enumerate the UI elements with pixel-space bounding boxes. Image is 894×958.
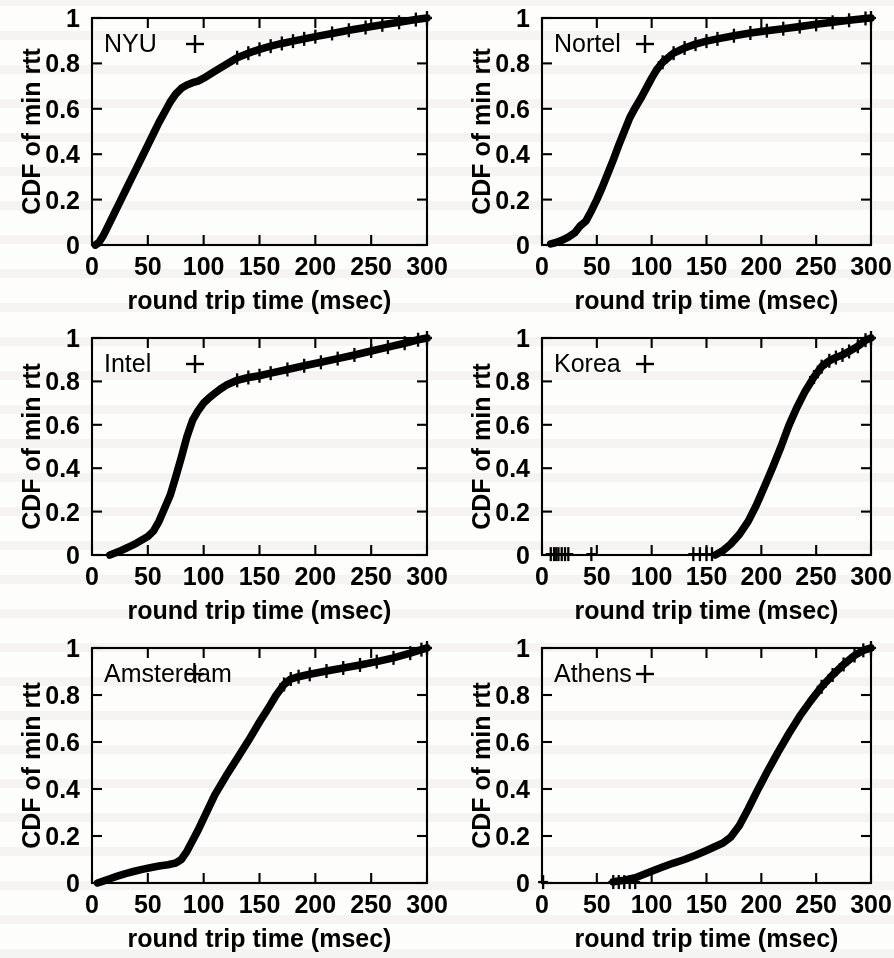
cdf-curve <box>613 648 871 882</box>
x-tick-label: 200 <box>740 252 782 280</box>
plot-nortel: 05010015020025030000.20.40.60.81Nortelro… <box>450 0 894 320</box>
x-tick-label: 0 <box>535 252 549 280</box>
y-tick-label: 0.6 <box>45 95 80 123</box>
x-tick-label: 50 <box>583 890 611 918</box>
y-tick-label: 0.6 <box>495 95 530 123</box>
x-tick-label: 50 <box>134 252 162 280</box>
y-tick-label: 0.8 <box>45 681 80 709</box>
y-tick-label: 1 <box>516 324 530 352</box>
y-tick-label: 0.8 <box>495 367 530 395</box>
x-tick-label: 150 <box>686 252 728 280</box>
x-tick-label: 100 <box>183 890 225 918</box>
y-tick-label: 0.2 <box>45 822 80 850</box>
panel-nyu: 05010015020025030000.20.40.60.81NYUround… <box>0 0 450 320</box>
x-tick-label: 0 <box>535 562 549 590</box>
x-tick-label: 250 <box>795 562 837 590</box>
y-tick-label: 1 <box>516 4 530 32</box>
x-tick-label: 100 <box>183 252 225 280</box>
x-tick-label: 200 <box>740 890 782 918</box>
y-tick-label: 0.6 <box>495 411 530 439</box>
y-tick-label: 0 <box>66 541 80 569</box>
legend-plus-icon <box>636 355 654 373</box>
series-label-nyu: NYU <box>104 29 157 57</box>
x-axis-title: round trip time (msec) <box>128 596 392 624</box>
x-tick-label: 100 <box>631 252 673 280</box>
cdf-curve <box>715 338 871 555</box>
x-tick-label: 50 <box>134 562 162 590</box>
x-tick-label: 300 <box>406 252 448 280</box>
x-tick-label: 200 <box>294 252 336 280</box>
y-axis-title: CDF of min rtt <box>17 682 45 849</box>
y-tick-label: 0.6 <box>45 411 80 439</box>
y-tick-label: 1 <box>66 4 80 32</box>
y-tick-label: 0.2 <box>495 186 530 214</box>
plot-intel: 05010015020025030000.20.40.60.81Intelrou… <box>0 320 450 630</box>
x-tick-label: 50 <box>583 252 611 280</box>
x-tick-label: 250 <box>795 890 837 918</box>
y-tick-label: 1 <box>66 324 80 352</box>
series-label-korea: Korea <box>554 349 621 377</box>
y-tick-label: 0.4 <box>495 775 530 803</box>
panel-nortel: 05010015020025030000.20.40.60.81Nortelro… <box>450 0 894 320</box>
x-tick-label: 150 <box>239 562 281 590</box>
y-tick-label: 0.4 <box>45 775 80 803</box>
x-tick-label: 150 <box>686 562 728 590</box>
y-tick-label: 0.8 <box>45 49 80 77</box>
x-tick-label: 200 <box>740 562 782 590</box>
x-tick-label: 300 <box>850 562 892 590</box>
plot-athens: 05010015020025030000.20.40.60.81Athensro… <box>450 630 894 958</box>
y-axis-title: CDF of min rtt <box>467 48 495 215</box>
x-tick-label: 0 <box>85 562 99 590</box>
x-tick-label: 0 <box>535 890 549 918</box>
x-tick-label: 250 <box>350 252 392 280</box>
legend-plus-icon <box>636 665 654 683</box>
x-axis-title: round trip time (msec) <box>128 286 392 314</box>
y-tick-label: 0 <box>516 869 530 897</box>
y-tick-label: 0.6 <box>495 728 530 756</box>
y-axis-title: CDF of min rtt <box>467 682 495 849</box>
x-tick-label: 250 <box>350 890 392 918</box>
y-axis-title: CDF of min rtt <box>17 48 45 215</box>
x-tick-label: 200 <box>294 562 336 590</box>
x-tick-label: 300 <box>406 890 448 918</box>
y-tick-label: 0.4 <box>495 140 530 168</box>
x-tick-label: 150 <box>686 890 728 918</box>
x-tick-label: 50 <box>583 562 611 590</box>
x-tick-label: 300 <box>406 562 448 590</box>
series-label-amsterdam: Amsterdam <box>104 659 232 687</box>
y-tick-label: 0.8 <box>495 681 530 709</box>
x-tick-label: 0 <box>85 252 99 280</box>
x-tick-label: 100 <box>631 562 673 590</box>
y-tick-label: 0 <box>516 541 530 569</box>
x-axis-title: round trip time (msec) <box>128 924 392 952</box>
figure-panel-grid: 05010015020025030000.20.40.60.81NYUround… <box>0 0 894 958</box>
series-label-nortel: Nortel <box>554 29 621 57</box>
x-tick-label: 100 <box>631 890 673 918</box>
plot-nyu: 05010015020025030000.20.40.60.81NYUround… <box>0 0 450 320</box>
y-tick-label: 0.8 <box>45 367 80 395</box>
panel-athens: 05010015020025030000.20.40.60.81Athensro… <box>450 630 894 958</box>
y-tick-label: 0 <box>516 231 530 259</box>
y-tick-label: 0.2 <box>495 822 530 850</box>
y-tick-label: 0.4 <box>495 454 530 482</box>
legend-plus-icon <box>186 35 204 53</box>
y-tick-label: 0.6 <box>45 728 80 756</box>
y-tick-label: 0.4 <box>45 140 80 168</box>
x-tick-label: 0 <box>85 890 99 918</box>
data-point-marker <box>538 875 548 889</box>
panel-amsterdam: 05010015020025030000.20.40.60.81Amsterda… <box>0 630 450 958</box>
x-tick-label: 150 <box>239 890 281 918</box>
x-tick-label: 250 <box>350 562 392 590</box>
y-axis-title: CDF of min rtt <box>467 363 495 530</box>
plot-amsterdam: 05010015020025030000.20.40.60.81Amsterda… <box>0 630 450 958</box>
panel-intel: 05010015020025030000.20.40.60.81Intelrou… <box>0 320 450 630</box>
x-tick-label: 250 <box>795 252 837 280</box>
x-tick-label: 100 <box>183 562 225 590</box>
x-tick-label: 50 <box>134 890 162 918</box>
y-tick-label: 0.8 <box>495 49 530 77</box>
y-tick-label: 1 <box>516 634 530 662</box>
cdf-curve <box>110 338 427 555</box>
y-tick-label: 0.2 <box>495 498 530 526</box>
x-tick-label: 200 <box>294 890 336 918</box>
y-tick-label: 0.2 <box>45 186 80 214</box>
